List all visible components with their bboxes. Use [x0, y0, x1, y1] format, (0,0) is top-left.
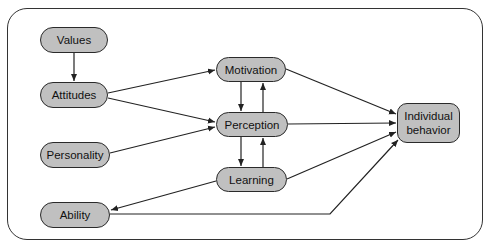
- node-personality: Personality: [40, 142, 110, 168]
- node-perception: Perception: [216, 112, 288, 137]
- node-values: Values: [40, 27, 108, 53]
- edge-attitudes-motivation: [108, 70, 215, 93]
- node-attitudes-label: Attitudes: [52, 88, 97, 102]
- node-motivation: Motivation: [216, 57, 286, 82]
- node-individual-behavior-line2: behavior: [406, 123, 450, 137]
- edge-motivation-behavior: [286, 69, 396, 114]
- node-individual-behavior-line1: Individual: [404, 109, 453, 123]
- node-learning-label: Learning: [229, 173, 274, 187]
- node-personality-label: Personality: [47, 148, 104, 162]
- node-attitudes: Attitudes: [40, 82, 108, 108]
- edge-learning-behavior: [287, 132, 396, 179]
- node-ability: Ability: [40, 202, 110, 228]
- node-perception-label: Perception: [225, 118, 280, 132]
- node-learning: Learning: [216, 167, 287, 192]
- edge-attitudes-perception: [108, 98, 215, 122]
- diagram: Values Attitudes Personality Ability Mot…: [0, 0, 489, 246]
- edge-learning-ability: [111, 181, 216, 210]
- node-individual-behavior: Individual behavior: [397, 103, 460, 143]
- node-values-label: Values: [57, 33, 91, 47]
- edge-perception-behavior: [288, 123, 396, 124]
- node-ability-label: Ability: [60, 208, 91, 222]
- edge-personality-perception: [110, 127, 215, 153]
- node-motivation-label: Motivation: [225, 63, 277, 77]
